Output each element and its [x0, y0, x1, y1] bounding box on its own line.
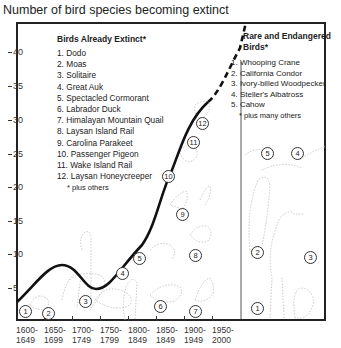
- bird-number-badge: 1: [19, 305, 32, 318]
- bird-number-badge: 5: [133, 252, 146, 265]
- bird-number-badge: 11: [187, 136, 200, 149]
- extinct-note: * plus others: [57, 182, 164, 193]
- list-item: 12. Laysan Honeycreeper: [57, 171, 164, 182]
- list-item: 2. California Condor: [231, 69, 326, 80]
- bird-number-badge: 9: [176, 208, 189, 221]
- list-item: 5. Spectacled Cormorant: [57, 93, 164, 104]
- bird-number-badge: 4: [116, 267, 129, 280]
- endangered-number-badge: 2: [251, 246, 264, 259]
- bird-number-badge: 3: [79, 295, 92, 308]
- bird-number-badge: 10: [162, 170, 175, 183]
- list-item: 5. Cahow: [231, 100, 326, 111]
- bird-number-badge: 2: [42, 307, 55, 320]
- list-item: 1. Dodo: [57, 48, 164, 59]
- list-item: 6. Labrador Duck: [57, 104, 164, 115]
- extinct-list: 1. Dodo 2. Moas 3. Solitaire 4. Great Au…: [57, 48, 164, 194]
- list-item: 11. Wake Island Rail: [57, 160, 164, 171]
- endangered-number-badge: 5: [261, 147, 274, 160]
- extinct-panel-title: Birds Already Extinct*: [57, 34, 146, 44]
- endangered-list: 1. Whooping Crane 2. California Condor 3…: [231, 58, 326, 122]
- endangered-number-badge: 1: [251, 302, 264, 315]
- bird-number-badge: 8: [189, 249, 202, 262]
- list-item: 7. Himalayan Mountain Quail: [57, 115, 164, 126]
- list-item: 3. Solitaire: [57, 70, 164, 81]
- list-item: 2. Moas: [57, 59, 164, 70]
- list-item: 9. Carolina Parakeet: [57, 138, 164, 149]
- endangered-note: * plus many others: [231, 111, 326, 122]
- list-item: 4. Great Auk: [57, 82, 164, 93]
- list-item: 3. Ivory-billed Woodpecker: [231, 79, 326, 90]
- bird-number-badge: 12: [196, 117, 209, 130]
- bird-number-badge: 6: [154, 300, 167, 313]
- list-item: 1. Whooping Crane: [231, 58, 326, 69]
- endangered-number-badge: 3: [304, 251, 317, 264]
- endangered-number-badge: 4: [291, 147, 304, 160]
- bird-number-badge: 7: [189, 305, 202, 318]
- list-item: 8. Laysan Island Rail: [57, 126, 164, 137]
- endangered-panel-title: Rare and Endangered Birds*: [243, 31, 331, 53]
- list-item: 10. Passenger Pigeon: [57, 149, 164, 160]
- list-item: 4. Steller's Albatross: [231, 90, 326, 101]
